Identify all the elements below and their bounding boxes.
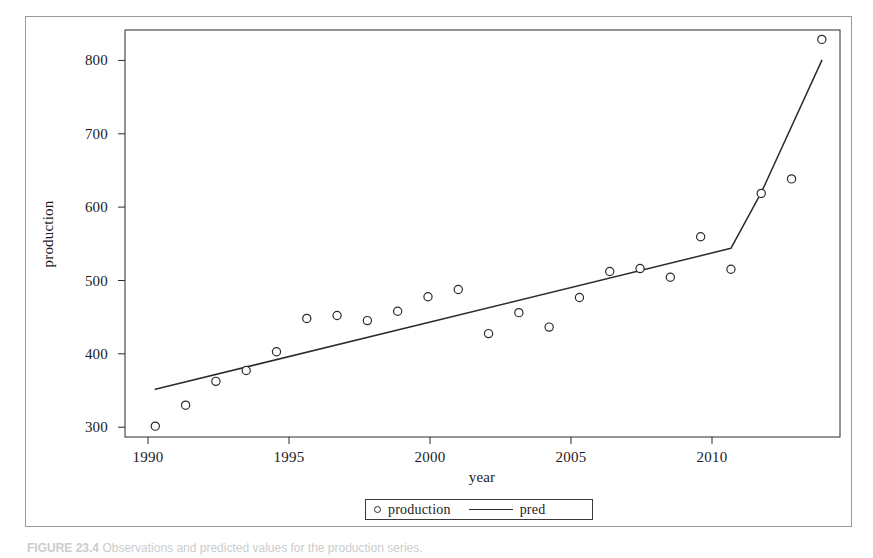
figure-caption-number: FIGURE 23.4 xyxy=(27,541,99,555)
x-tick-label-1990: 1990 xyxy=(133,449,164,466)
x-tick-label-2005: 2005 xyxy=(556,449,587,466)
figure-caption-text: Observations and predicted values for th… xyxy=(102,541,422,555)
x-tick-label-2000: 2000 xyxy=(415,449,446,466)
legend-entry-pred: pred xyxy=(469,502,546,518)
y-tick-label-500: 500 xyxy=(60,272,108,289)
solid-line-marker-icon xyxy=(469,509,513,510)
x-axis-title: year xyxy=(469,469,496,486)
y-tick-label-400: 400 xyxy=(60,345,108,362)
x-tick-label-1995: 1995 xyxy=(274,449,305,466)
chart-legend: production pred xyxy=(365,499,593,520)
legend-label-production: production xyxy=(388,502,451,518)
legend-label-pred: pred xyxy=(520,502,546,518)
y-axis-title: production xyxy=(40,201,57,268)
figure-caption: FIGURE 23.4 Observations and predicted v… xyxy=(27,541,847,558)
y-tick-label-300: 300 xyxy=(60,419,108,436)
open-circle-marker-icon xyxy=(374,506,381,513)
x-tick-label-2010: 2010 xyxy=(697,449,728,466)
legend-entry-production: production xyxy=(374,502,451,518)
y-tick-label-700: 700 xyxy=(60,125,108,142)
y-tick-label-800: 800 xyxy=(60,52,108,69)
y-tick-label-600: 600 xyxy=(60,199,108,216)
figure-container: 800 700 600 500 400 300 1990 1995 2000 2… xyxy=(0,0,873,558)
